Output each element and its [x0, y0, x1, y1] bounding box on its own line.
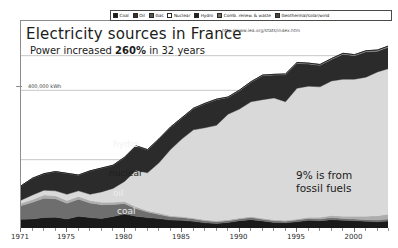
x-tick-minor — [285, 228, 286, 231]
x-tick-minor — [101, 228, 102, 231]
x-tick-minor — [342, 228, 343, 231]
x-tick-minor — [331, 228, 332, 231]
x-tick-minor — [319, 228, 320, 231]
chart-legend: CoalOilGasNuclearHydroComb. renew. & was… — [110, 10, 392, 21]
x-axis-label: 2000 — [345, 233, 363, 242]
legend-swatch-icon — [149, 13, 154, 18]
x-tick-minor — [193, 228, 194, 231]
legend-item-coal: Coal — [113, 13, 129, 18]
subtitle-suffix: in 32 years — [146, 45, 205, 56]
legend-label: Geothermal/solar/wind — [281, 13, 329, 18]
legend-swatch-icon — [167, 13, 172, 18]
x-axis-label: 1990 — [230, 233, 248, 242]
x-tick-major — [239, 228, 240, 232]
legend-swatch-icon — [133, 13, 138, 18]
x-tick-minor — [135, 228, 136, 231]
legend-label: Hydro — [201, 13, 214, 18]
annotation-fossil-fuels: 9% is from fossil fuels — [296, 169, 352, 195]
y-axis-tick-label: 400,000 kWh — [28, 83, 61, 90]
x-tick-minor — [308, 228, 309, 231]
series-label-coal: coal — [117, 206, 135, 217]
x-tick-minor — [204, 228, 205, 231]
x-tick-major — [354, 228, 355, 232]
x-axis-label: 1985 — [172, 233, 190, 242]
x-tick-minor — [365, 228, 366, 231]
x-tick-minor — [262, 228, 263, 231]
legend-item-gas: Gas — [149, 13, 164, 18]
x-axis: 1971197519801985199019952000 — [20, 228, 388, 248]
legend-label: Coal — [120, 13, 129, 18]
legend-item-geothermal-solar-wind: Geothermal/solar/wind — [275, 13, 329, 18]
x-tick-minor — [32, 228, 33, 231]
x-tick-minor — [55, 228, 56, 231]
x-tick-minor — [216, 228, 217, 231]
legend-swatch-icon — [275, 13, 280, 18]
x-axis-label: 1975 — [57, 233, 75, 242]
title-block: Electricity sources in France Power incr… — [26, 26, 242, 57]
series-label-hydro: hydro — [113, 139, 139, 150]
x-tick-minor — [250, 228, 251, 231]
x-axis-label: 1971 — [11, 233, 29, 242]
legend-item-oil: Oil — [133, 13, 145, 18]
legend-swatch-icon — [194, 13, 199, 18]
annotation-line-2: fossil fuels — [296, 182, 352, 195]
x-tick-minor — [227, 228, 228, 231]
source-url-text: http://www.iea.org/stats/index.htm — [222, 28, 300, 34]
x-tick-minor — [170, 228, 171, 231]
x-tick-major — [124, 228, 125, 232]
x-tick-major — [20, 228, 21, 232]
x-tick-major — [181, 228, 182, 232]
x-tick-minor — [78, 228, 79, 231]
legend-swatch-icon — [113, 13, 118, 18]
x-tick-minor — [43, 228, 44, 231]
x-tick-major — [296, 228, 297, 232]
x-tick-minor — [112, 228, 113, 231]
x-tick-minor — [273, 228, 274, 231]
page-title: Electricity sources in France — [26, 26, 242, 43]
chart-screenshot: CoalOilGasNuclearHydroComb. renew. & was… — [0, 0, 398, 248]
legend-swatch-icon — [217, 13, 222, 18]
subtitle-highlight: 260% — [115, 45, 146, 56]
legend-label: Comb. renew. & waste — [224, 13, 271, 18]
legend-label: Gas — [155, 13, 163, 18]
x-tick-minor — [158, 228, 159, 231]
x-tick-minor — [89, 228, 90, 231]
legend-item-hydro: Hydro — [194, 13, 213, 18]
legend-label: Oil — [139, 13, 145, 18]
x-axis-label: 1980 — [115, 233, 133, 242]
series-label-oil: oil — [113, 188, 124, 199]
subtitle-prefix: Power increased — [30, 45, 115, 56]
x-tick-major — [66, 228, 67, 232]
y-tick-mark — [16, 86, 22, 87]
x-axis-label: 1995 — [287, 233, 305, 242]
legend-item-nuclear: Nuclear — [167, 13, 190, 18]
series-label-nuclear: nuclear — [109, 168, 143, 179]
legend-item-comb-renew-waste: Comb. renew. & waste — [217, 13, 271, 18]
chart-subtitle: Power increased 260% in 32 years — [30, 44, 242, 57]
legend-label: Nuclear — [174, 13, 190, 18]
x-tick-minor — [147, 228, 148, 231]
x-tick-minor — [388, 228, 389, 231]
x-tick-minor — [377, 228, 378, 231]
annotation-line-1: 9% is from — [296, 169, 352, 182]
